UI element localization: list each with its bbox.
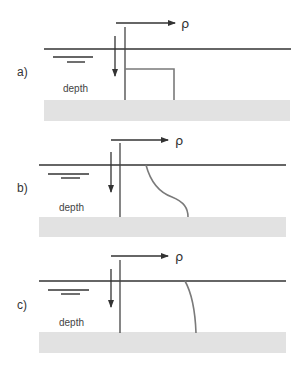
density-symbol: ρ bbox=[175, 133, 183, 148]
ground-sediment bbox=[39, 332, 286, 353]
ground-sediment bbox=[44, 100, 290, 121]
density-symbol: ρ bbox=[175, 249, 183, 264]
panel-a: ρ a) depth bbox=[17, 16, 291, 121]
panel-label: a) bbox=[17, 65, 28, 79]
density-symbol: ρ bbox=[181, 16, 189, 31]
panel-label: b) bbox=[17, 181, 28, 195]
ground-sediment bbox=[39, 217, 286, 237]
density-profile-curve bbox=[185, 281, 196, 333]
density-profile-step bbox=[125, 69, 174, 100]
panel-b: ρ b) depth bbox=[17, 133, 286, 237]
density-profile-curve bbox=[146, 165, 188, 217]
density-profile-diagram: ρ a) depth ρ b) depth ρ c) depth bbox=[0, 0, 299, 368]
depth-label: depth bbox=[59, 317, 84, 328]
panel-c: ρ c) depth bbox=[17, 249, 286, 353]
panel-label: c) bbox=[17, 298, 27, 312]
depth-label: depth bbox=[63, 83, 88, 94]
depth-label: depth bbox=[59, 202, 84, 213]
